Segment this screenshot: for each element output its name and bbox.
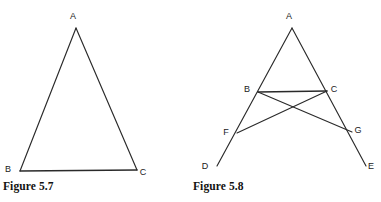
figure-board: A B C A B C F G D E Figure 5.7 Figure 5.… <box>0 0 381 202</box>
vertex-label-e-fig58: E <box>368 161 374 171</box>
vertex-label-a-fig57: A <box>70 11 76 21</box>
segment-bg-fig58 <box>258 92 352 132</box>
vertex-label-a-fig58: A <box>286 11 292 21</box>
segment-ae-fig58 <box>292 28 366 166</box>
vertex-label-c-fig57: C <box>140 167 147 177</box>
vertex-label-f-fig58: F <box>223 127 229 137</box>
figure-caption-5-7: Figure 5.7 <box>3 180 54 192</box>
vertex-label-b-fig58: B <box>244 84 250 94</box>
vertex-label-d-fig58: D <box>202 161 209 171</box>
figure-5-8-drawing: A B C F G D E <box>202 11 374 171</box>
figure-5-7-drawing: A B C <box>5 11 147 177</box>
segment-ab-fig57 <box>20 28 76 171</box>
geometry-drawing: A B C A B C F G D E <box>0 0 381 202</box>
segment-bc-fig58 <box>258 91 327 92</box>
vertex-label-g-fig58: G <box>354 125 361 135</box>
segment-bc-fig57 <box>20 170 137 171</box>
segment-cf-fig58 <box>237 91 327 133</box>
segment-ad-fig58 <box>217 28 292 166</box>
figure-caption-5-8: Figure 5.8 <box>193 180 244 192</box>
vertex-label-c-fig58: C <box>331 84 338 94</box>
vertex-label-b-fig57: B <box>5 164 11 174</box>
segment-ac-fig57 <box>76 28 137 170</box>
